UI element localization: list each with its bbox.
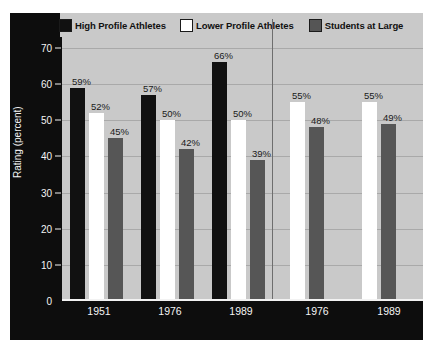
white-swatch-icon [180,19,193,32]
y-tick-mark-40 [55,156,61,157]
gridline-60 [62,84,423,85]
legend-item-lower-profile-athletes: Lower Profile Athletes [180,13,294,37]
black-swatch-icon [59,19,72,32]
y-tick-label-0: 0 [46,296,52,307]
y-tick-mark-50 [55,120,61,121]
bar [70,88,85,301]
y-tick-label-50: 50 [41,115,52,126]
legend-label-high-profile-athletes: High Profile Athletes [75,20,166,31]
bar-value-label: 50% [233,108,252,119]
y-axis-title: Rating (percent) [12,106,23,178]
y-tick-mark-60 [55,84,61,85]
y-tick-label-70: 70 [41,42,52,53]
y-tick-mark-20 [55,228,61,229]
bar [231,120,246,301]
y-tick-mark-70 [55,47,61,48]
legend-item-high-profile-athletes: High Profile Athletes [59,13,166,37]
bar-value-label: 49% [383,112,402,123]
bar-value-label: 48% [311,115,330,126]
chart-legend: High Profile Athletes Lower Profile Athl… [60,13,423,37]
y-tick-mark-30 [55,192,61,193]
bar-value-label: 50% [162,108,181,119]
y-tick-label-10: 10 [41,259,52,270]
bar [381,124,396,301]
bar [290,102,305,301]
bar-value-label: 39% [252,148,271,159]
bar [160,120,175,301]
y-tick-label-60: 60 [41,79,52,90]
x-tick-label-0: 1951 [69,305,129,317]
x-tick-label-4: 1989 [359,305,419,317]
axis-baseline [62,299,423,301]
y-tick-label-40: 40 [41,151,52,162]
x-tick-label-2: 1989 [211,305,271,317]
chart-screenshot: High Profile Athletes Lower Profile Athl… [0,0,430,352]
bar [141,95,156,301]
bar [108,138,123,301]
x-tick-label-3: 1976 [287,305,347,317]
bar-value-label: 45% [110,126,129,137]
y-tick-mark-10 [55,264,61,265]
bar-value-label: 57% [143,83,162,94]
bar [179,149,194,301]
legend-label-students-at-large: Students at Large [325,20,404,31]
bar [309,127,324,301]
bar-value-label: 55% [364,90,383,101]
bar [362,102,377,301]
x-tick-label-1: 1976 [140,305,200,317]
gray-swatch-icon [309,19,322,32]
bar-value-label: 66% [214,50,233,61]
bar-value-label: 52% [91,101,110,112]
y-tick-label-20: 20 [41,223,52,234]
bar [89,113,104,301]
bar-value-label: 42% [181,137,200,148]
panel-divider [272,19,273,301]
gridline-70 [62,48,423,49]
bar [212,62,227,301]
legend-item-students-at-large: Students at Large [309,13,404,37]
bar-value-label: 59% [72,76,91,87]
bar [250,160,265,301]
y-tick-label-30: 30 [41,187,52,198]
legend-label-lower-profile-athletes: Lower Profile Athletes [196,20,294,31]
plot-area: 59%52%45%57%50%42%66%50%39%55%48%55%49% [62,37,423,301]
bar-value-label: 55% [292,90,311,101]
